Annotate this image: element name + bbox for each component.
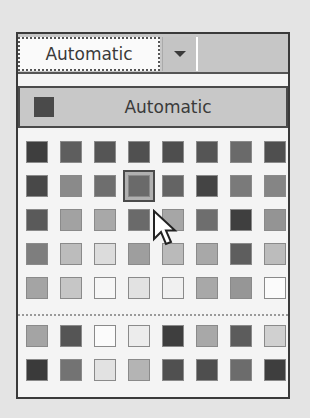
automatic-color-swatch bbox=[34, 97, 54, 117]
color-row bbox=[24, 325, 286, 359]
color-swatch[interactable] bbox=[162, 243, 184, 265]
color-swatch[interactable] bbox=[264, 325, 286, 347]
color-swatch[interactable] bbox=[60, 359, 82, 381]
color-swatch[interactable] bbox=[128, 243, 150, 265]
color-row bbox=[24, 243, 286, 277]
color-combo-box[interactable]: Automatic bbox=[18, 34, 288, 74]
color-swatch[interactable] bbox=[128, 359, 150, 381]
chevron-down-icon bbox=[174, 51, 186, 57]
color-swatch[interactable] bbox=[230, 243, 252, 265]
palette-divider bbox=[18, 314, 288, 316]
color-swatch[interactable] bbox=[26, 359, 48, 381]
color-swatch[interactable] bbox=[128, 277, 150, 299]
color-swatch[interactable] bbox=[26, 325, 48, 347]
color-swatch[interactable] bbox=[196, 277, 218, 299]
automatic-color-button[interactable]: Automatic bbox=[18, 86, 288, 128]
color-swatch[interactable] bbox=[196, 209, 218, 231]
color-swatch[interactable] bbox=[26, 141, 48, 163]
color-swatch[interactable] bbox=[264, 359, 286, 381]
color-swatch[interactable] bbox=[128, 209, 150, 231]
color-swatch[interactable] bbox=[26, 175, 48, 197]
color-swatch[interactable] bbox=[162, 175, 184, 197]
color-combo-value[interactable]: Automatic bbox=[18, 37, 160, 71]
color-swatch[interactable] bbox=[60, 141, 82, 163]
color-swatch[interactable] bbox=[26, 243, 48, 265]
color-swatch[interactable] bbox=[264, 175, 286, 197]
color-swatch[interactable] bbox=[26, 277, 48, 299]
color-picker-panel: Automatic Automatic bbox=[16, 32, 290, 399]
color-swatch[interactable] bbox=[94, 175, 116, 197]
color-swatch[interactable] bbox=[162, 209, 184, 231]
color-swatch[interactable] bbox=[94, 209, 116, 231]
automatic-color-label: Automatic bbox=[70, 88, 266, 126]
color-swatch[interactable] bbox=[128, 325, 150, 347]
color-swatch[interactable] bbox=[196, 243, 218, 265]
color-swatch[interactable] bbox=[264, 141, 286, 163]
color-swatch[interactable] bbox=[162, 359, 184, 381]
dropdown-button[interactable] bbox=[162, 37, 198, 71]
color-row bbox=[24, 209, 286, 243]
standard-color-grid bbox=[24, 141, 286, 311]
color-swatch[interactable] bbox=[230, 359, 252, 381]
color-swatch[interactable] bbox=[230, 141, 252, 163]
color-swatch[interactable] bbox=[196, 325, 218, 347]
color-swatch[interactable] bbox=[264, 277, 286, 299]
color-swatch[interactable] bbox=[94, 141, 116, 163]
color-swatch[interactable] bbox=[196, 141, 218, 163]
color-swatch[interactable] bbox=[264, 209, 286, 231]
color-row bbox=[24, 175, 286, 209]
color-swatch[interactable] bbox=[230, 209, 252, 231]
color-swatch[interactable] bbox=[60, 175, 82, 197]
color-swatch-selected[interactable] bbox=[128, 175, 150, 197]
color-swatch[interactable] bbox=[162, 141, 184, 163]
color-row bbox=[24, 359, 286, 393]
color-swatch[interactable] bbox=[128, 141, 150, 163]
color-swatch[interactable] bbox=[264, 243, 286, 265]
color-swatch[interactable] bbox=[162, 277, 184, 299]
color-swatch[interactable] bbox=[60, 209, 82, 231]
color-swatch[interactable] bbox=[60, 325, 82, 347]
color-row bbox=[24, 277, 286, 311]
color-swatch[interactable] bbox=[230, 175, 252, 197]
color-swatch[interactable] bbox=[94, 325, 116, 347]
color-swatch[interactable] bbox=[196, 175, 218, 197]
color-swatch[interactable] bbox=[230, 325, 252, 347]
color-swatch[interactable] bbox=[196, 359, 218, 381]
color-swatch[interactable] bbox=[94, 277, 116, 299]
color-swatch[interactable] bbox=[230, 277, 252, 299]
color-swatch[interactable] bbox=[94, 243, 116, 265]
color-swatch[interactable] bbox=[60, 243, 82, 265]
color-swatch[interactable] bbox=[94, 359, 116, 381]
color-swatch[interactable] bbox=[26, 209, 48, 231]
color-swatch[interactable] bbox=[162, 325, 184, 347]
color-swatch[interactable] bbox=[60, 277, 82, 299]
custom-color-grid bbox=[24, 325, 286, 393]
color-row bbox=[24, 141, 286, 175]
